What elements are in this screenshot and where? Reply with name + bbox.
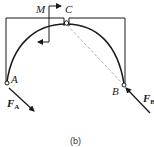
hinge-b [122, 83, 126, 87]
label-m: M [35, 3, 46, 15]
arch-curve [7, 24, 124, 84]
label-fb: FB [142, 92, 154, 106]
hinge-a [5, 81, 9, 85]
label-fa-sub: A [14, 103, 19, 111]
three-hinged-arch-diagram: M C A B FA FB (b) [0, 0, 154, 147]
label-b: B [112, 85, 119, 97]
label-fb-sub: B [150, 98, 154, 106]
label-c: C [65, 3, 73, 15]
hinge-c [64, 21, 68, 25]
label-a: A [10, 73, 18, 85]
label-fa: FA [6, 97, 19, 111]
right-frame [69, 18, 125, 84]
figure-caption: (b) [70, 136, 81, 146]
